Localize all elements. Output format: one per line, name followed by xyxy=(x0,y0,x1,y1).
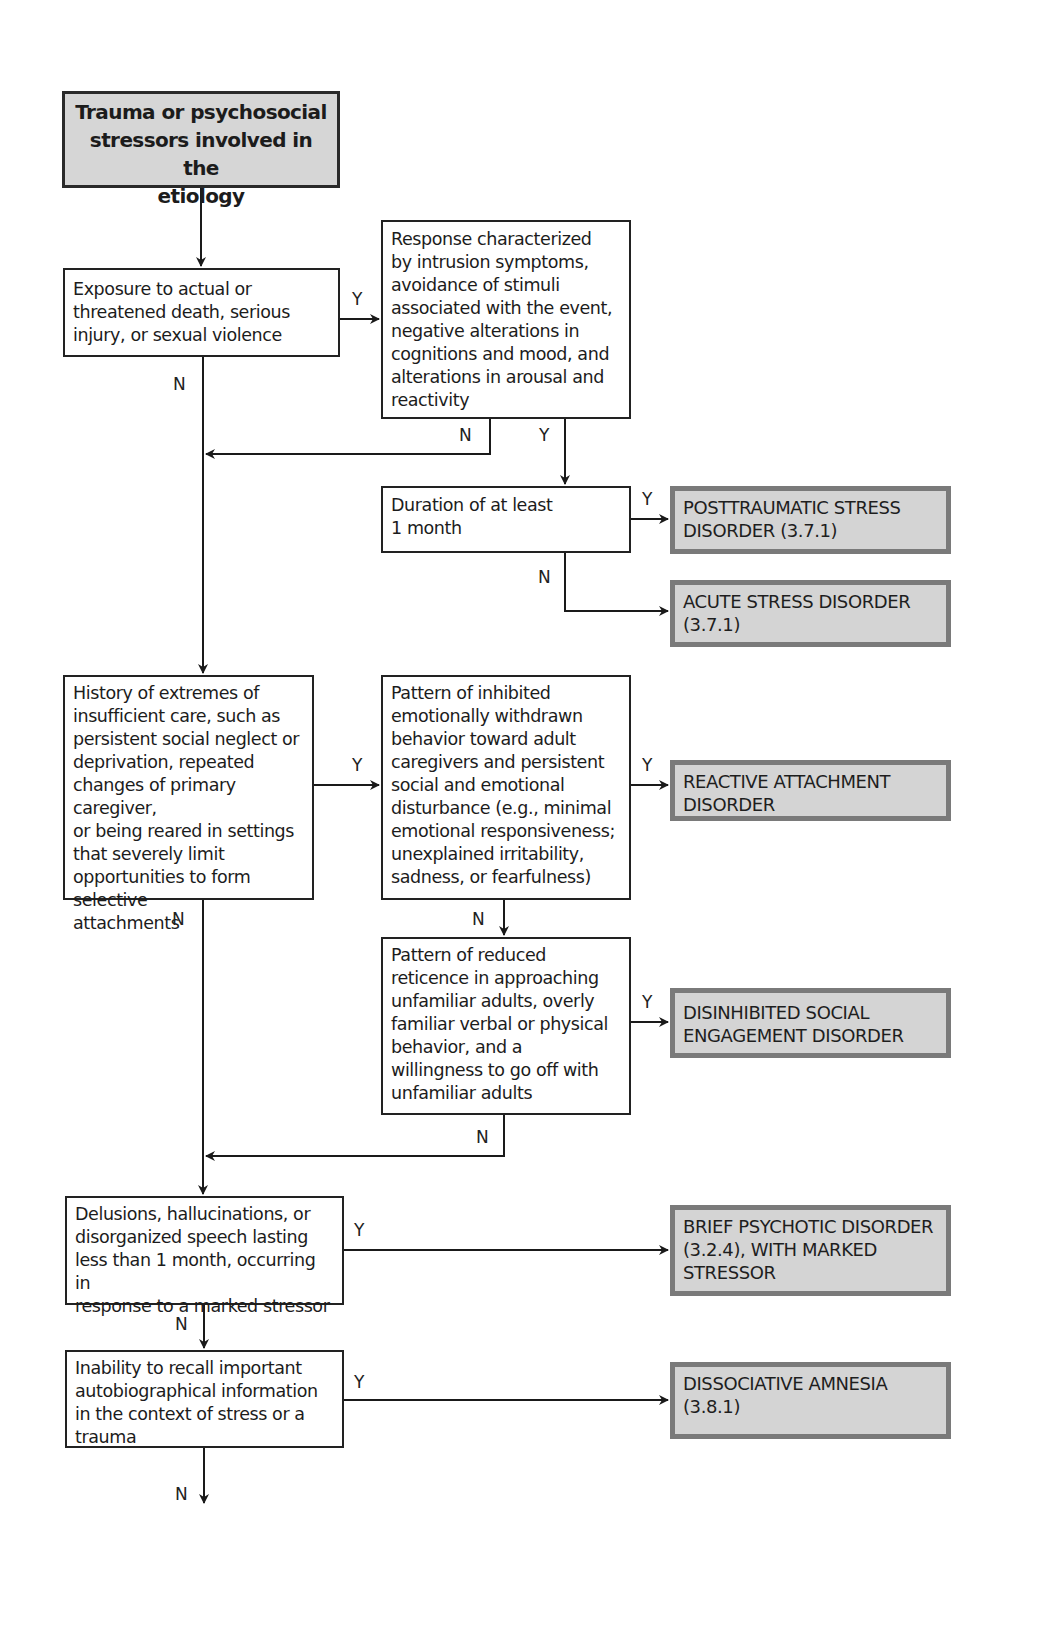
outcome-text: BRIEF PSYCHOTIC DISORDER xyxy=(683,1215,938,1238)
edge-label-no: N xyxy=(472,909,485,929)
outcome-acute-stress-disorder: ACUTE STRESS DISORDER (3.7.1) xyxy=(670,580,951,647)
decision-exposure: Exposure to actual or threatened death, … xyxy=(63,268,340,357)
decision-text: by intrusion symptoms, xyxy=(391,251,621,274)
edge-label-no: N xyxy=(172,909,185,929)
outcome-text: (3.7.1) xyxy=(683,613,938,636)
outcome-brief-psychotic-disorder: BRIEF PSYCHOTIC DISORDER (3.2.4), WITH M… xyxy=(670,1205,951,1296)
edge-label-no: N xyxy=(173,374,186,394)
decision-text: injury, or sexual violence xyxy=(73,324,330,347)
decision-duration: Duration of at least 1 month xyxy=(381,486,631,553)
decision-text: familiar verbal or physical xyxy=(391,1013,621,1036)
decision-text: alterations in arousal and xyxy=(391,366,621,389)
outcome-text: ACUTE STRESS DISORDER xyxy=(683,590,938,613)
start-line: Trauma or psychosocial xyxy=(71,98,331,126)
edge-label-no: N xyxy=(459,425,472,445)
outcome-text: DISORDER xyxy=(683,793,938,816)
decision-delusions: Delusions, hallucinations, or disorganiz… xyxy=(65,1196,344,1305)
decision-text: Pattern of reduced xyxy=(391,944,621,967)
decision-text: disorganized speech lasting xyxy=(75,1226,334,1249)
decision-text: or being reared in settings xyxy=(73,820,304,843)
decision-text: avoidance of stimuli xyxy=(391,274,621,297)
decision-text: behavior toward adult xyxy=(391,728,621,751)
decision-text: unfamiliar adults, overly xyxy=(391,990,621,1013)
outcome-text: DISSOCIATIVE AMNESIA xyxy=(683,1372,938,1395)
decision-text: response to a marked stressor xyxy=(75,1295,334,1318)
outcome-text: REACTIVE ATTACHMENT xyxy=(683,770,938,793)
decision-text: negative alterations in xyxy=(391,320,621,343)
decision-text: threatened death, serious xyxy=(73,301,330,324)
outcome-text: STRESSOR xyxy=(683,1261,938,1284)
decision-text: reactivity xyxy=(391,389,621,412)
decision-response-symptoms: Response characterized by intrusion symp… xyxy=(381,220,631,419)
decision-reduced-reticence: Pattern of reduced reticence in approach… xyxy=(381,937,631,1115)
decision-text: less than 1 month, occurring in xyxy=(75,1249,334,1295)
edge-label-yes: Y xyxy=(354,1372,364,1392)
decision-inhibited-pattern: Pattern of inhibited emotionally withdra… xyxy=(381,675,631,900)
outcome-dissociative-amnesia: DISSOCIATIVE AMNESIA (3.8.1) xyxy=(670,1362,951,1439)
edge-label-yes: Y xyxy=(352,755,362,775)
decision-history-insufficient-care: History of extremes of insufficient care… xyxy=(63,675,314,900)
decision-text: Duration of at least xyxy=(391,494,621,517)
decision-text: History of extremes of xyxy=(73,682,304,705)
decision-text: willingness to go off with xyxy=(391,1059,621,1082)
decision-text: sadness, or fearfulness) xyxy=(391,866,621,889)
edge-label-no: N xyxy=(476,1127,489,1147)
outcome-ptsd: POSTTRAUMATIC STRESS DISORDER (3.7.1) xyxy=(670,486,951,554)
decision-text: persistent social neglect or xyxy=(73,728,304,751)
edge-label-yes: Y xyxy=(642,489,652,509)
outcome-text: DISINHIBITED SOCIAL xyxy=(683,1001,938,1024)
start-line: etiology xyxy=(71,182,331,210)
decision-text: opportunities to form selective xyxy=(73,866,304,912)
decision-text: insufficient care, such as xyxy=(73,705,304,728)
decision-text: caregivers and persistent xyxy=(391,751,621,774)
decision-text: Response characterized xyxy=(391,228,621,251)
decision-text: disturbance (e.g., minimal xyxy=(391,797,621,820)
decision-text: deprivation, repeated xyxy=(73,751,304,774)
decision-text: attachments xyxy=(73,912,304,935)
edge-label-no: N xyxy=(175,1314,188,1334)
edge-label-yes: Y xyxy=(354,1220,364,1240)
edge-label-yes: Y xyxy=(642,992,652,1012)
decision-text: emotionally withdrawn xyxy=(391,705,621,728)
outcome-text: (3.8.1) xyxy=(683,1395,938,1418)
outcome-disinhibited-social-engagement-disorder: DISINHIBITED SOCIAL ENGAGEMENT DISORDER xyxy=(670,988,951,1058)
decision-text: cognitions and mood, and xyxy=(391,343,621,366)
edge-label-yes: Y xyxy=(539,425,549,445)
decision-text: Delusions, hallucinations, or xyxy=(75,1203,334,1226)
decision-text: that severely limit xyxy=(73,843,304,866)
outcome-reactive-attachment-disorder: REACTIVE ATTACHMENT DISORDER xyxy=(670,760,951,821)
decision-text: Inability to recall important xyxy=(75,1357,334,1380)
decision-text: in the context of stress or a xyxy=(75,1403,334,1426)
decision-text: 1 month xyxy=(391,517,621,540)
decision-inability-to-recall: Inability to recall important autobiogra… xyxy=(65,1350,344,1448)
outcome-text: POSTTRAUMATIC STRESS xyxy=(683,496,938,519)
decision-text: Exposure to actual or xyxy=(73,278,330,301)
decision-text: autobiographical information xyxy=(75,1380,334,1403)
edge-label-yes: Y xyxy=(352,289,362,309)
edge-label-no: N xyxy=(175,1484,188,1504)
start-line: stressors involved in the xyxy=(71,126,331,182)
decision-text: social and emotional xyxy=(391,774,621,797)
decision-text: behavior, and a xyxy=(391,1036,621,1059)
decision-text: unfamiliar adults xyxy=(391,1082,621,1105)
edge-label-no: N xyxy=(538,567,551,587)
decision-text: associated with the event, xyxy=(391,297,621,320)
decision-text: trauma xyxy=(75,1426,334,1449)
decision-text: reticence in approaching xyxy=(391,967,621,990)
outcome-text: (3.2.4), WITH MARKED xyxy=(683,1238,938,1261)
outcome-text: ENGAGEMENT DISORDER xyxy=(683,1024,938,1047)
outcome-text: DISORDER (3.7.1) xyxy=(683,519,938,542)
decision-text: unexplained irritability, xyxy=(391,843,621,866)
decision-text: Pattern of inhibited xyxy=(391,682,621,705)
edge-label-yes: Y xyxy=(642,755,652,775)
decision-text: changes of primary caregiver, xyxy=(73,774,304,820)
decision-text: emotional responsiveness; xyxy=(391,820,621,843)
start-node-trauma-stressors: Trauma or psychosocial stressors involve… xyxy=(62,91,340,188)
